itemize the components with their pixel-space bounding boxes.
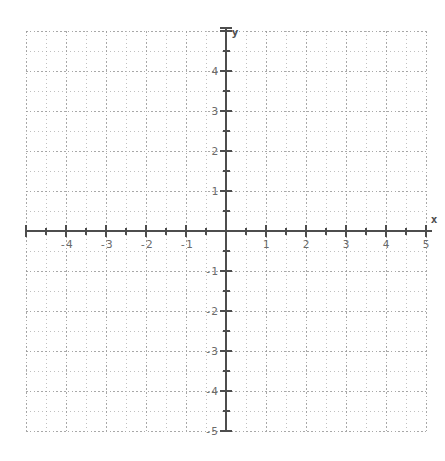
y-tick-label: -3	[205, 345, 218, 358]
x-tick-label: -4	[59, 238, 73, 251]
y-tick-label: -4	[205, 385, 219, 398]
y-tick-label: 4	[211, 65, 218, 78]
y-tick-label: -2	[205, 305, 218, 318]
y-tick-label: 3	[211, 105, 218, 118]
x-tick-label: -3	[99, 238, 112, 251]
x-tick-label: -1	[179, 238, 192, 251]
x-axis-label: x	[431, 213, 438, 226]
y-tick-label: 2	[211, 145, 218, 158]
x-tick-label: 2	[303, 238, 310, 251]
y-tick-label: -5	[205, 425, 218, 438]
x-tick-label: 1	[263, 238, 270, 251]
x-tick-label: 4	[383, 238, 390, 251]
x-tick-label: 5	[423, 238, 430, 251]
coordinate-grid-svg: -4-3-2-112345 -5-4-3-2-11234 x y	[0, 0, 445, 461]
x-tick-label: 3	[343, 238, 350, 251]
coordinate-plane: -4-3-2-112345 -5-4-3-2-11234 x y	[0, 0, 445, 461]
x-tick-label: -2	[139, 238, 152, 251]
y-tick-label: 1	[211, 185, 218, 198]
y-axis-label: y	[232, 26, 239, 39]
y-tick-label: -1	[205, 265, 218, 278]
